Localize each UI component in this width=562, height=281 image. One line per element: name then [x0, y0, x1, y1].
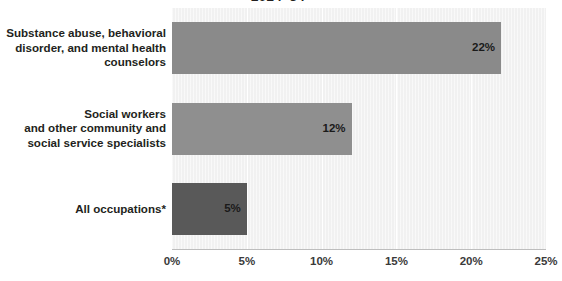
category-label-line: social service specialists [0, 136, 166, 151]
category-label-substance-abuse-counselors: Substance abuse, behavioral disorder, an… [0, 26, 166, 70]
x-tick-label: 20% [441, 255, 501, 267]
bar-all-occupations: 5% [172, 183, 247, 235]
category-label-line: and other community and [0, 121, 166, 136]
category-label-line: Substance abuse, behavioral [0, 26, 166, 41]
x-tick-label: 25% [516, 255, 562, 267]
bar-value-label: 12% [322, 123, 345, 135]
category-label-all-occupations: All occupations* [0, 202, 166, 217]
x-tick-label: 10% [292, 255, 352, 267]
category-label-line: counselors [0, 55, 166, 70]
category-label-line: All occupations* [0, 202, 166, 217]
bar-substance-abuse-counselors: 22% [172, 22, 501, 74]
category-axis-labels: Substance abuse, behavioral disorder, an… [0, 0, 166, 281]
plot-area: 22% 12% 5% [172, 8, 546, 249]
category-label-line: disorder, and mental health [0, 41, 166, 56]
x-tick-label: 15% [366, 255, 426, 267]
x-axis-line [172, 249, 546, 250]
x-tick-label: 5% [217, 255, 277, 267]
category-label-line: Social workers [0, 107, 166, 122]
bar-value-label: 22% [472, 42, 495, 54]
bar-value-label: 5% [224, 203, 241, 215]
bar-social-workers: 12% [172, 103, 352, 155]
x-tick-label: 0% [142, 255, 202, 267]
gridline [546, 8, 547, 249]
category-label-social-workers: Social workers and other community and s… [0, 107, 166, 151]
